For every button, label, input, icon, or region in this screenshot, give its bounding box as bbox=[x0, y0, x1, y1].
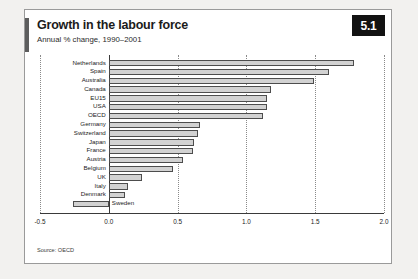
x-tick-2.0: 2.0 bbox=[380, 218, 389, 225]
category-label-germany: Germany bbox=[80, 120, 105, 129]
chart-row: UK bbox=[40, 173, 384, 182]
category-label-canada: Canada bbox=[84, 85, 106, 94]
bar-austria bbox=[109, 157, 183, 163]
x-tick-0.5: 0.5 bbox=[173, 218, 182, 225]
chart-subtitle: Annual % change, 1990–2001 bbox=[37, 35, 141, 44]
category-label-japan: Japan bbox=[89, 138, 106, 147]
chart-row: Belgium bbox=[40, 165, 384, 174]
figure-panel: Growth in the labour force Annual % chan… bbox=[24, 9, 392, 264]
page-title: Growth in the labour force bbox=[37, 18, 188, 32]
chart-bar-rows: NetherlandsSpainAustraliaCanadaEU15USAOE… bbox=[40, 59, 384, 209]
category-label-uk: UK bbox=[97, 173, 106, 182]
gridline-2.0 bbox=[384, 55, 385, 213]
category-label-belgium: Belgium bbox=[83, 164, 105, 173]
chart-row: Sweden bbox=[40, 200, 384, 209]
bar-japan bbox=[109, 139, 194, 145]
category-label-spain: Spain bbox=[90, 67, 106, 76]
bar-eu15 bbox=[109, 95, 267, 101]
category-label-denmark: Denmark bbox=[81, 190, 106, 199]
category-label-australia: Australia bbox=[82, 76, 106, 85]
category-label-netherlands: Netherlands bbox=[72, 59, 105, 68]
bar-usa bbox=[109, 104, 267, 110]
chart-plot-area: NetherlandsSpainAustraliaCanadaEU15USAOE… bbox=[40, 55, 384, 225]
category-label-switzerland: Switzerland bbox=[74, 129, 106, 138]
x-axis-line bbox=[40, 213, 384, 214]
x-tick--0.5: -0.5 bbox=[34, 218, 45, 225]
chart-row: EU15 bbox=[40, 94, 384, 103]
title-accent-bar bbox=[25, 18, 29, 52]
bar-australia bbox=[109, 78, 314, 84]
figure-number-badge: 5.1 bbox=[352, 15, 385, 36]
bar-netherlands bbox=[109, 60, 354, 66]
bar-oecd bbox=[109, 113, 263, 119]
bar-spain bbox=[109, 69, 329, 75]
category-label-france: France bbox=[87, 146, 106, 155]
x-tick-1.0: 1.0 bbox=[242, 218, 251, 225]
bar-france bbox=[109, 148, 193, 154]
category-label-italy: Italy bbox=[94, 182, 105, 191]
chart-row: Denmark bbox=[40, 191, 384, 200]
bar-belgium bbox=[109, 166, 174, 172]
bar-switzerland bbox=[109, 130, 198, 136]
x-tick-0.0: 0.0 bbox=[104, 218, 113, 225]
bar-sweden bbox=[73, 201, 109, 207]
category-label-oecd: OECD bbox=[88, 111, 106, 120]
category-label-austria: Austria bbox=[87, 155, 106, 164]
category-label-sweden: Sweden bbox=[112, 199, 134, 208]
source-note: Source: OECD bbox=[37, 247, 74, 253]
category-label-usa: USA bbox=[93, 102, 106, 111]
bar-uk bbox=[109, 174, 142, 180]
bar-denmark bbox=[109, 192, 126, 198]
bar-italy bbox=[109, 183, 128, 189]
x-tick-1.5: 1.5 bbox=[311, 218, 320, 225]
bar-canada bbox=[109, 86, 271, 92]
bar-germany bbox=[109, 122, 200, 128]
category-label-eu15: EU15 bbox=[90, 94, 105, 103]
